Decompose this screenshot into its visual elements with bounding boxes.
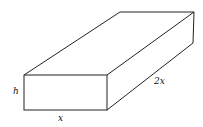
side-face xyxy=(107,12,194,110)
width-label: x xyxy=(58,113,63,123)
length-label: 2x xyxy=(153,76,165,86)
top-face xyxy=(24,12,194,75)
box-diagram: h x 2x xyxy=(0,0,203,127)
height-label: h xyxy=(13,86,19,96)
front-face xyxy=(24,75,107,110)
